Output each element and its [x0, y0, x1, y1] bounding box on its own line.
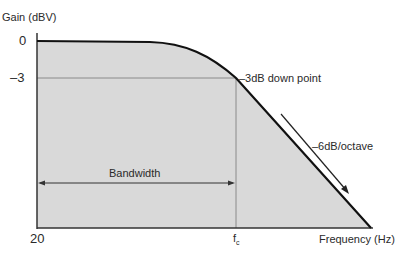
response-area-fill [37, 41, 371, 228]
y-axis-title: Gain (dBV) [2, 11, 56, 23]
cutoff-annotation: –3dB down point [239, 72, 321, 84]
bandwidth-annotation: Bandwidth [109, 167, 160, 179]
y-tick-0: 0 [19, 33, 26, 48]
x-tick-fc: fc [233, 232, 240, 246]
x-axis-title: Frequency (Hz) [319, 233, 395, 245]
y-tick-minus3: –3 [10, 70, 24, 85]
x-tick-20: 20 [30, 231, 44, 246]
frequency-response-chart [0, 0, 407, 259]
fc-subscript: c [236, 239, 240, 246]
slope-annotation: –6dB/octave [312, 140, 373, 152]
